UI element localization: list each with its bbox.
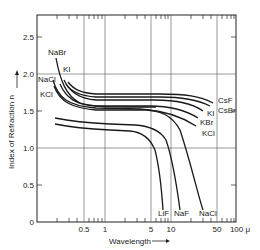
curve-lif	[55, 124, 163, 210]
x-axis-title: Wavelength	[109, 237, 151, 246]
y-tick-label: 0	[30, 218, 35, 227]
y-axis-title: Index of Refraction n	[7, 95, 16, 169]
label-nacl-left: NaCl	[38, 75, 56, 84]
label-ki-right: KI	[207, 109, 215, 118]
x-tick-label: 5	[149, 225, 154, 234]
x-tick-label: 1	[103, 225, 108, 234]
refraction-index-chart: 2.5 2.0 1.5 1.0 0.5 0 0.5 1 5 10 50 100 …	[0, 0, 260, 250]
label-kbr: KBr	[200, 118, 214, 127]
label-ki-left: KI	[63, 65, 71, 74]
curve-naf	[55, 118, 180, 210]
y-axis-arrowhead-icon	[15, 70, 19, 75]
x-tick-label: 10	[167, 225, 176, 234]
label-nabr: NaBr	[48, 48, 67, 57]
y-tick-label: 1.5	[23, 107, 35, 116]
x-tick-label: 100 μ	[230, 225, 251, 234]
y-tick-label: 1.0	[23, 144, 35, 153]
y-tick-label: 2.5	[23, 33, 35, 42]
curves	[53, 58, 213, 210]
y-tick-label: 0.5	[23, 181, 35, 190]
x-axis-arrowhead-icon	[166, 239, 170, 243]
label-naf: NaF	[174, 209, 189, 218]
label-csf: CsF	[218, 96, 233, 105]
x-tick-label: 0.5	[78, 225, 90, 234]
label-csbr: CsBr	[218, 106, 236, 115]
x-tick-label: 50	[213, 225, 222, 234]
label-nacl-bottom: NaCl	[199, 209, 217, 218]
label-lif: LiF	[158, 209, 169, 218]
label-kcl-right: KCl	[202, 129, 215, 138]
label-kcl-left: KCl	[40, 90, 53, 99]
y-tick-label: 2.0	[23, 70, 35, 79]
